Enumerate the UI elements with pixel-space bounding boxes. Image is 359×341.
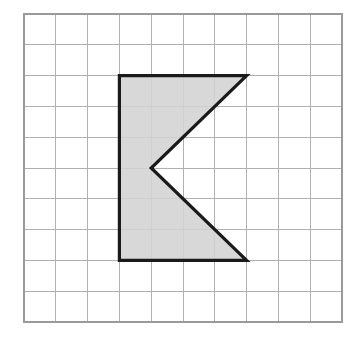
- figure-canvas: [0, 0, 359, 341]
- square-grid: [24, 14, 342, 322]
- grid-figure-svg: [0, 0, 359, 341]
